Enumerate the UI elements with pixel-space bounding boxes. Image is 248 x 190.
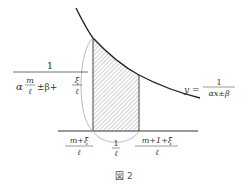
svg-text:ℓ: ℓ [155,148,159,157]
alpha-symbol: α [16,81,23,92]
svg-text:ξ: ξ [75,76,80,85]
height-numerator: 1 [47,60,53,71]
svg-text:ℓ: ℓ [77,148,81,157]
svg-text:ℓ: ℓ [114,149,118,158]
figure-caption: 図 2 [115,171,133,181]
height-label: 1 α m ℓ ±β+ ξ ℓ [13,60,88,96]
svg-text:1: 1 [216,78,221,87]
svg-text:±β+: ±β+ [37,82,57,92]
x-label-left: m+ξ ℓ [65,136,93,157]
svg-text:m+ξ: m+ξ [70,136,89,145]
x-label-right: m+1+ξ ℓ [135,136,178,157]
riemann-rectangle-diagram: 1 α m ℓ ±β+ ξ ℓ y = 1 αx±β m+ξ ℓ 1 ℓ m+1… [0,0,248,190]
svg-text:y =: y = [183,85,200,95]
svg-text:ℓ: ℓ [75,87,79,96]
svg-text:m+1+ξ: m+1+ξ [142,136,173,145]
height-brace [81,38,93,131]
svg-text:1: 1 [113,139,118,148]
svg-text:m: m [26,76,34,85]
svg-text:ℓ: ℓ [28,87,32,96]
hatched-area [93,38,139,131]
svg-text:αx±β: αx±β [208,89,230,98]
